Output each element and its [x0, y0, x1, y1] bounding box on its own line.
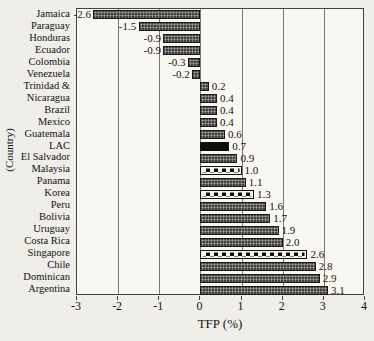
bar-value-label: 1.3 — [257, 189, 271, 200]
bar-value-label: 2.0 — [286, 237, 300, 248]
bar-honduras — [163, 34, 200, 43]
category-label: Argentina — [28, 283, 70, 295]
category-label: Jamaica — [36, 8, 70, 20]
x-tick-label: 3 — [320, 299, 326, 313]
plot-area: -2.6-1.5-0.9-0.9-0.3-0.20.20.40.40.40.60… — [76, 8, 364, 295]
bar-dominican — [200, 274, 319, 283]
bar-value-label: 2.6 — [310, 249, 324, 260]
bar-value-label: -2.6 — [74, 9, 91, 20]
bar-venezuela — [192, 70, 200, 79]
bar-value-label: 1.6 — [269, 201, 283, 212]
x-tick-label: 0 — [196, 299, 202, 313]
bar-mexico — [200, 118, 216, 127]
bar-bolivia — [200, 214, 270, 223]
bar-trinidad — [200, 82, 208, 91]
category-label: Malaysia — [32, 163, 71, 175]
bar-value-label: -0.9 — [143, 45, 160, 56]
bar-paraguay — [139, 22, 201, 31]
category-label: Uruguay — [33, 223, 70, 235]
figure-root: (Country) JamaicaParaguayHondurasEcuador… — [0, 0, 374, 341]
x-axis-title: TFP (%) — [76, 316, 364, 332]
bar-value-label: 0.7 — [232, 141, 246, 152]
bar-value-label: 0.9 — [240, 153, 254, 164]
x-tick-label: -2 — [112, 299, 122, 313]
bar-singapore — [200, 250, 307, 259]
bar-value-label: -0.3 — [168, 57, 185, 68]
bar-value-label: 2.9 — [323, 273, 337, 284]
category-label: Guatemala — [25, 128, 70, 140]
gridline — [118, 9, 119, 294]
category-label: El Salvador — [21, 151, 70, 163]
category-label: Colombia — [29, 56, 70, 68]
category-label: Singapore — [27, 247, 70, 259]
x-tick-label: 2 — [279, 299, 285, 313]
bar-value-label: 0.4 — [220, 117, 234, 128]
category-label: Peru — [51, 199, 70, 211]
category-label: Mexico — [38, 116, 70, 128]
category-label: Korea — [44, 187, 70, 199]
category-labels: JamaicaParaguayHondurasEcuadorColombiaVe… — [0, 8, 73, 295]
bar-jamaica — [93, 10, 200, 19]
bar-value-label: 0.2 — [212, 81, 226, 92]
bar-el-salvador — [200, 154, 237, 163]
category-label: Paraguay — [31, 20, 70, 32]
category-label: Venezuela — [27, 68, 70, 80]
bar-chile — [200, 262, 315, 271]
x-tick-label: 4 — [361, 299, 367, 313]
category-label: Dominican — [23, 271, 70, 283]
bar-colombia — [188, 58, 200, 67]
bar-malaysia — [200, 166, 241, 175]
category-label: LAC — [49, 140, 70, 152]
bar-panama — [200, 178, 245, 187]
bar-value-label: -0.2 — [172, 69, 189, 80]
bar-value-label: -0.9 — [143, 33, 160, 44]
bar-nicaragua — [200, 94, 216, 103]
bar-argentina — [200, 286, 328, 295]
category-label: Honduras — [29, 32, 70, 44]
bar-value-label: 1.7 — [273, 213, 287, 224]
bar-peru — [200, 202, 266, 211]
bar-value-label: 2.8 — [319, 261, 333, 272]
category-label: Nicaragua — [27, 92, 70, 104]
bar-costa-rica — [200, 238, 282, 247]
bar-value-label: 0.4 — [220, 93, 234, 104]
category-label: Bolivia — [39, 211, 70, 223]
bar-value-label: 1.0 — [245, 165, 259, 176]
bar-brazil — [200, 106, 216, 115]
bar-guatemala — [200, 130, 225, 139]
bar-value-label: 0.6 — [228, 129, 242, 140]
bar-value-label: 1.9 — [282, 225, 296, 236]
x-tick-label: -1 — [153, 299, 163, 313]
bar-value-label: 1.1 — [249, 177, 263, 188]
category-label: Chile — [47, 259, 70, 271]
x-tick-label: 1 — [238, 299, 244, 313]
category-label: Costa Rica — [24, 235, 70, 247]
bar-korea — [200, 190, 253, 199]
bar-value-label: -1.5 — [119, 21, 136, 32]
category-label: Brazil — [44, 104, 70, 116]
x-tick-label: -3 — [71, 299, 81, 313]
bar-ecuador — [163, 46, 200, 55]
category-label: Panama — [37, 175, 70, 187]
category-label: Trinidad & — [23, 80, 70, 92]
bar-value-label: 0.4 — [220, 105, 234, 116]
category-label: Ecuador — [35, 44, 70, 56]
bar-value-label: 3.1 — [331, 285, 345, 296]
bar-uruguay — [200, 226, 278, 235]
bar-lac — [200, 142, 229, 151]
